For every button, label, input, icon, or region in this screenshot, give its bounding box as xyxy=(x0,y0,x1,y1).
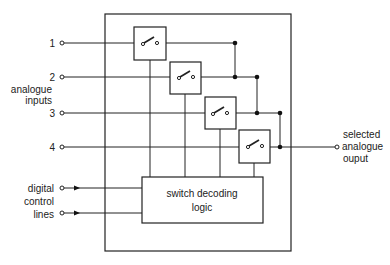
switch-decoding-logic-box xyxy=(142,177,263,223)
switch-1 xyxy=(134,27,166,60)
control-label-3: lines xyxy=(33,209,54,220)
inputs-group-label-2: inputs xyxy=(25,95,52,106)
output-terminal xyxy=(335,145,339,149)
output-label-2: analogue xyxy=(342,141,384,152)
input-2-label: 2 xyxy=(49,72,55,83)
switch-2 xyxy=(170,62,201,94)
inputs-group-label-1: analogue xyxy=(11,84,53,95)
control-label-1: digital xyxy=(28,183,54,194)
input-1-label: 1 xyxy=(49,38,55,49)
input-3-label: 3 xyxy=(49,108,55,119)
logic-label-line1: switch decoding xyxy=(166,188,237,199)
switch-4 xyxy=(239,130,270,163)
control-label-2: control xyxy=(24,196,54,207)
input-4-label: 4 xyxy=(49,142,55,153)
switch-3 xyxy=(205,97,236,129)
output-label-1: selected xyxy=(343,129,380,140)
multiplexer-diagram: switch decoding logic 1 2 3 4 analogue i… xyxy=(0,0,390,265)
output-label-3: ouput xyxy=(343,153,368,164)
input-terminals xyxy=(60,41,64,149)
logic-label-line2: logic xyxy=(192,202,213,213)
